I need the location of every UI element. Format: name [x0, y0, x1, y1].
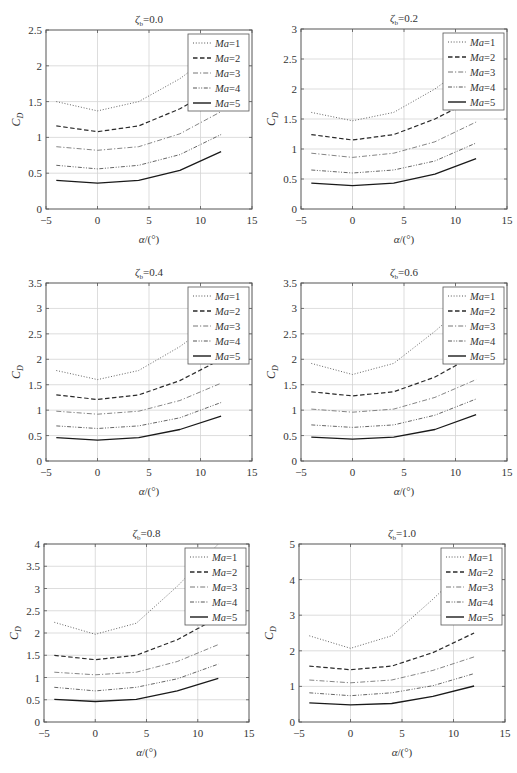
title-value: =0.8: [140, 527, 160, 539]
chart-panel-1: −505101500.511.522.53ζb=0.2α/(°)CDMa=1Ma…: [264, 12, 513, 246]
y-tick-label: 2.5: [283, 328, 297, 340]
legend-label: Ma=5: [214, 351, 240, 362]
x-tick-label: 10: [450, 466, 462, 478]
legend-label: Ma=4: [211, 597, 238, 608]
x-tick-label: −5: [295, 214, 307, 226]
x-axis-label: α/(°): [139, 233, 160, 246]
x-tick-label: −5: [293, 727, 305, 739]
legend-label: Ma=1: [469, 37, 495, 48]
x-axis-label: α/(°): [139, 485, 160, 498]
x-axis-label: α/(°): [394, 485, 415, 498]
legend-label: Ma=3: [211, 582, 237, 593]
y-axis-label: CD: [264, 112, 280, 126]
y-tick-label: 0.5: [26, 694, 40, 706]
y-tick-label: 3: [35, 583, 41, 595]
y-tick-label: 0.5: [28, 167, 42, 179]
legend-label: Ma=2: [467, 567, 493, 578]
y-tick-label: 2: [292, 83, 298, 95]
y-tick-label: 1.5: [283, 379, 297, 391]
chart-panel-0: −505101500.511.522.5ζb=0.0α/(°)CDMa=1Ma=…: [9, 13, 258, 246]
y-tick-label: 2.5: [28, 24, 42, 36]
y-tick-label: 4: [290, 574, 296, 586]
series-line-ma-3: [54, 645, 218, 675]
x-tick-label: 10: [195, 466, 207, 478]
series-line-ma-3: [56, 383, 221, 414]
legend-label: Ma=1: [214, 38, 240, 49]
x-tick-label: −5: [40, 466, 52, 478]
y-tick-label: 3: [37, 302, 43, 314]
y-tick-label: 2: [292, 353, 298, 365]
chart-title: ζb=0.2: [390, 12, 418, 27]
y-tick-label: 3.5: [26, 560, 40, 572]
y-tick-label: 5: [290, 538, 296, 550]
y-axis-label: CD: [9, 365, 25, 379]
y-tick-label: 2: [290, 645, 296, 657]
y-tick-label: 1: [292, 404, 298, 416]
y-tick-label: 0: [35, 716, 41, 728]
y-tick-label: 3: [290, 609, 296, 621]
legend-label: Ma=1: [211, 552, 237, 563]
x-tick-label: 10: [450, 214, 462, 226]
y-tick-label: 1.5: [26, 649, 40, 661]
legend: Ma=1Ma=2Ma=3Ma=4Ma=5: [443, 287, 504, 364]
legend-label: Ma=2: [211, 567, 237, 578]
y-axis-label: CD: [7, 626, 23, 640]
legend-label: Ma=5: [469, 97, 495, 108]
legend-label: Ma=3: [469, 321, 495, 332]
y-tick-label: 3.5: [28, 277, 42, 289]
x-tick-label: 5: [401, 466, 407, 478]
x-tick-label: 0: [93, 727, 99, 739]
title-value: =0.4: [143, 266, 163, 278]
legend-label: Ma=4: [469, 82, 496, 93]
legend-label: Ma=2: [214, 53, 240, 64]
x-tick-label: −5: [40, 214, 52, 226]
y-tick-label: 2.5: [283, 53, 297, 65]
series-line-ma-4: [56, 135, 221, 169]
x-tick-label: 10: [448, 727, 460, 739]
chart-title: ζb=0.4: [135, 266, 163, 281]
legend-label: Ma=4: [467, 597, 494, 608]
y-axis-label: CD: [264, 365, 280, 379]
y-tick-label: 1.5: [28, 96, 42, 108]
y-tick-label: 2: [35, 627, 41, 639]
x-axis-label: α/(°): [394, 233, 415, 246]
legend-label: Ma=2: [469, 52, 495, 63]
y-tick-label: 2: [37, 60, 43, 72]
x-tick-label: 15: [247, 214, 259, 226]
series-line-ma-5: [54, 678, 218, 701]
y-tick-label: 1: [292, 143, 298, 155]
series-line-ma-5: [309, 686, 474, 705]
chart-panel-2: −505101500.511.522.533.5ζb=0.4α/(°)CDMa=…: [9, 266, 258, 498]
y-tick-label: 0.5: [283, 173, 297, 185]
legend-label: Ma=2: [469, 306, 495, 317]
title-value: =0.0: [143, 13, 163, 25]
chart-title: ζb=1.0: [388, 527, 416, 542]
legend: Ma=1Ma=2Ma=3Ma=4Ma=5: [185, 548, 246, 625]
legend-label: Ma=3: [214, 321, 240, 332]
legend-label: Ma=5: [467, 612, 493, 623]
legend: Ma=1Ma=2Ma=3Ma=4Ma=5: [443, 33, 504, 110]
series-line-ma-5: [56, 416, 221, 440]
y-tick-label: 0.5: [283, 430, 297, 442]
y-tick-label: 0: [290, 716, 296, 728]
x-tick-label: 0: [95, 214, 101, 226]
y-tick-label: 1.5: [28, 379, 42, 391]
legend-label: Ma=4: [214, 83, 241, 94]
figure-canvas: −505101500.511.522.5ζb=0.0α/(°)CDMa=1Ma=…: [0, 0, 517, 773]
y-axis-label: CD: [9, 112, 25, 126]
y-tick-label: 3.5: [283, 277, 297, 289]
y-tick-label: 1: [37, 131, 43, 143]
y-tick-label: 2: [37, 353, 43, 365]
x-tick-label: 15: [500, 727, 512, 739]
x-tick-label: −5: [295, 466, 307, 478]
x-tick-label: 5: [146, 214, 152, 226]
chart-panel-4: −505101500.511.522.533.54ζb=0.8α/(°)CDMa…: [7, 527, 255, 759]
series-line-ma-3: [56, 112, 221, 151]
y-tick-label: 1: [35, 672, 41, 684]
x-tick-label: 0: [348, 727, 354, 739]
x-tick-label: 15: [247, 466, 259, 478]
chart-title: ζb=0.6: [390, 266, 418, 281]
legend-label: Ma=5: [211, 612, 237, 623]
figure: −505101500.511.522.5ζb=0.0α/(°)CDMa=1Ma=…: [0, 0, 517, 773]
x-tick-label: 0: [95, 466, 101, 478]
